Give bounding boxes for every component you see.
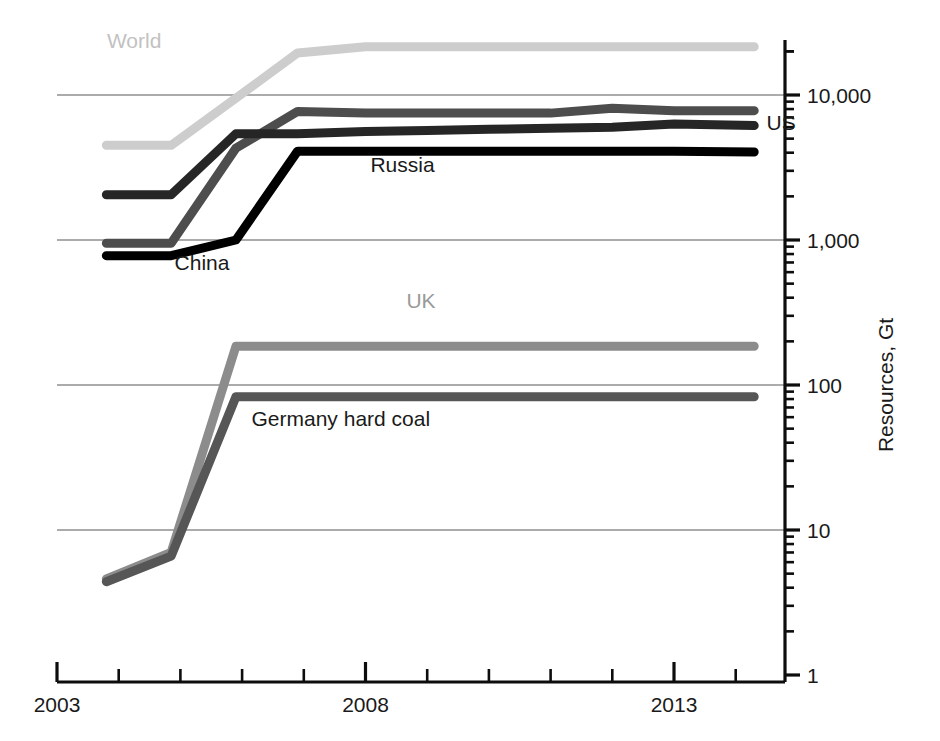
x-tick-label: 2013 [651,693,698,716]
series-label-world: World [107,29,161,52]
y-axis-title: Resources, Gt [874,318,897,452]
x-tick-label: 2008 [342,693,389,716]
y-tick-label: 10 [807,519,830,542]
chart-container: 10,0001,000100101 200320082013 WorldRuss… [0,0,940,741]
series-label-russia: Russia [370,153,435,176]
y-tick-label: 1 [807,664,819,687]
series-label-uk: UK [406,289,435,312]
series-label-china: China [175,251,230,274]
y-tick-label: 1,000 [807,229,860,252]
y-axis-title-group: Resources, Gt [874,318,897,452]
series-label-germany-hard-coal: Germany hard coal [252,407,431,430]
y-tick-label: 10,000 [807,84,871,107]
resources-log-line-chart: 10,0001,000100101 200320082013 WorldRuss… [0,0,940,741]
x-tick-label: 2003 [34,693,81,716]
series-label-us: US [767,111,796,134]
y-tick-label: 100 [807,374,842,397]
